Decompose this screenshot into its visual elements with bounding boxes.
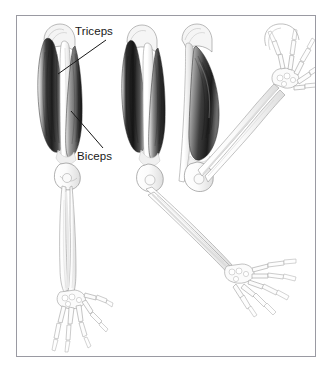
arm-view-flexed: [179, 24, 330, 192]
hand-skeleton-view3: [265, 24, 330, 90]
label-triceps: Triceps: [75, 26, 113, 38]
arm-anatomy-illustration: [0, 0, 332, 373]
arm-view-extended-front: [38, 24, 113, 352]
hand-skeleton-view1: [52, 290, 113, 352]
hand-skeleton-view2: [225, 259, 296, 317]
anatomy-figure: Triceps Biceps: [0, 0, 332, 373]
label-biceps: Biceps: [77, 151, 112, 163]
